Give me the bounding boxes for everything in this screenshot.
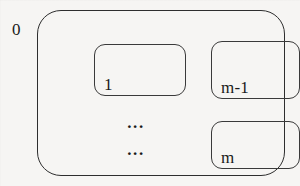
inner-box-m-minus-1: m-1 [211, 41, 300, 99]
ellipsis-row-1: ... [113, 118, 159, 128]
inner-box-1: 1 [94, 44, 186, 96]
diagram-canvas: 0 1 m-1 m ... ... [0, 0, 300, 186]
outer-region-box: 1 m-1 m ... ... [37, 10, 285, 176]
inner-box-m: m [211, 121, 300, 169]
ellipsis-row-2: ... [113, 145, 159, 155]
inner-box-m-minus-1-label: m-1 [221, 78, 249, 97]
inner-box-m-label: m [221, 148, 234, 167]
inner-box-1-label: 1 [104, 75, 113, 94]
outer-region-label: 0 [12, 20, 21, 39]
